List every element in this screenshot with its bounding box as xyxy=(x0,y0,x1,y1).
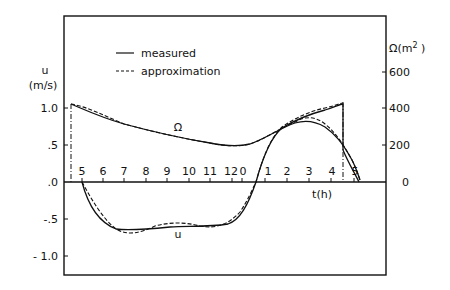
chart: 1.0 .5 .0 -.5 - 1.0 u (m/s) 600 400 200 … xyxy=(0,0,450,290)
left-tick-label: .0 xyxy=(48,176,59,189)
svg-text:1: 1 xyxy=(265,165,272,178)
right-tick-label: 600 xyxy=(389,66,410,79)
right-tick-label: 200 xyxy=(389,139,410,152)
svg-text:10: 10 xyxy=(182,165,196,178)
svg-text:4: 4 xyxy=(329,165,336,178)
left-tick-label: 1.0 xyxy=(41,102,59,115)
svg-text:12: 12 xyxy=(224,165,238,178)
svg-text:7: 7 xyxy=(121,165,128,178)
svg-text:11: 11 xyxy=(203,165,217,178)
left-tick-label: - 1.0 xyxy=(33,250,58,263)
left-tick-label: -.5 xyxy=(44,213,58,226)
right-axis-label: Ω(m2 ) xyxy=(389,41,425,55)
x-axis-tick-labels: 5 6 7 8 9 10 11 12 0 1 2 3 4 5 xyxy=(79,165,359,178)
x-axis-label: t(h) xyxy=(312,188,332,201)
svg-text:8: 8 xyxy=(143,165,150,178)
omega-curve-label: Ω xyxy=(174,121,182,134)
svg-text:6: 6 xyxy=(100,165,107,178)
legend-label-measured: measured xyxy=(141,47,196,60)
right-tick-label: 400 xyxy=(389,102,410,115)
svg-text:3: 3 xyxy=(306,165,313,178)
svg-text:0: 0 xyxy=(240,165,247,178)
legend-label-approximation: approximation xyxy=(141,65,220,78)
svg-text:5: 5 xyxy=(79,165,86,178)
u-curve-label: u xyxy=(175,228,182,241)
left-axis-unit: (m/s) xyxy=(29,79,58,92)
legend: measured approximation xyxy=(116,47,220,78)
left-axis-label: u xyxy=(42,64,49,77)
svg-text:2: 2 xyxy=(284,165,291,178)
svg-text:9: 9 xyxy=(164,165,171,178)
left-tick-label: .5 xyxy=(48,139,59,152)
right-tick-label: 0 xyxy=(402,176,409,189)
